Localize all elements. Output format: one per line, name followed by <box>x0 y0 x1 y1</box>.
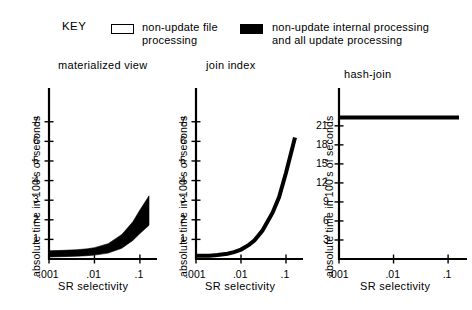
x-tick-label: .01 <box>385 268 400 280</box>
filled-square-swatch-icon <box>240 24 263 34</box>
y-tick-label: 5 <box>33 154 39 166</box>
y-tick-label: 4 <box>180 174 186 186</box>
x-tick-label: .001 <box>185 268 205 280</box>
panel-title-2: hash-join <box>344 68 391 80</box>
y-tick-label: 6 <box>180 134 186 146</box>
open-square-swatch-icon <box>111 24 134 34</box>
y-tick-label: 9 <box>323 195 329 207</box>
figure-three-panel-chart: KEY non-update file processing non-updat… <box>0 0 472 310</box>
x-axis-label-2: SR selectivity <box>360 280 430 292</box>
panel-hash-join: hash-join absolute time in 100's of seco… <box>298 44 472 310</box>
key-title: KEY <box>62 20 86 32</box>
x-tick-label: .01 <box>233 268 248 280</box>
y-tick-label: 3 <box>323 233 329 245</box>
panel-title-1: join index <box>206 59 255 71</box>
x-axis-label-1: SR selectivity <box>205 280 275 292</box>
x-axis-label-0: SR selectivity <box>58 280 128 292</box>
y-tick-label: 12 <box>316 176 328 188</box>
x-tick-label: .001 <box>38 268 58 280</box>
x-tick-label: .01 <box>86 268 101 280</box>
x-tick-label: .001 <box>328 268 348 280</box>
y-tick-label: 2 <box>33 213 39 225</box>
y-tick-label: 7 <box>180 115 186 127</box>
panel-materialized-view: materialized view absolute time in 100's… <box>0 44 160 310</box>
y-tick-label: 6 <box>33 134 39 146</box>
panel-join-index: join index absolute time in 100's of sec… <box>150 44 305 310</box>
x-tick-label: .1 <box>135 268 144 280</box>
panel-title-0: materialized view <box>58 59 147 71</box>
x-tick-label: .1 <box>281 268 290 280</box>
y-tick-label: 2 <box>180 213 186 225</box>
y-tick-label: 21 <box>316 119 328 131</box>
y-tick-label: 7 <box>33 115 39 127</box>
y-tick-label: 6 <box>323 214 329 226</box>
y-tick-label: 18 <box>316 138 328 150</box>
y-tick-label: 3 <box>180 193 186 205</box>
x-tick-label: .1 <box>443 268 452 280</box>
y-tick-label: 1 <box>180 232 186 244</box>
y-tick-label: 3 <box>33 193 39 205</box>
y-tick-label: 4 <box>33 174 39 186</box>
y-tick-label: 15 <box>316 157 328 169</box>
y-tick-label: 5 <box>180 154 186 166</box>
y-tick-label: 1 <box>33 232 39 244</box>
chart-key-legend: KEY non-update file processing non-updat… <box>0 8 472 42</box>
